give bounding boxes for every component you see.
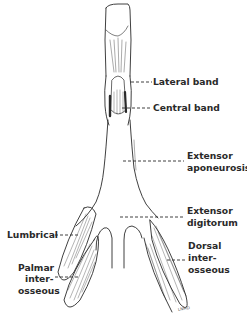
label-extensor-aponeurosis-line1: Extensor	[187, 150, 233, 161]
label-dorsal-interosseous-line3: osseous	[188, 264, 230, 275]
aponeurosis-right-edge	[130, 120, 158, 218]
label-palmar-interosseous-line3: osseous	[18, 285, 60, 296]
dorsal-interosseous-muscle	[150, 220, 187, 308]
aponeurosis-left-edge	[76, 120, 108, 226]
anatomy-diagram: Lateral band Central band Extensor apone…	[0, 0, 247, 329]
lateral-band-right	[128, 76, 131, 125]
label-dorsal-interosseous-line1: Dorsal	[188, 240, 221, 251]
lumbrical-muscle	[58, 207, 96, 280]
label-palmar-interosseous-line1: Palmar	[18, 262, 54, 273]
label-extensor-digitorum-line2: digitorum	[187, 217, 238, 228]
label-palmar-interosseous-line2: inter-	[25, 273, 54, 284]
label-dorsal-interosseous-line2: inter-	[188, 252, 217, 263]
label-central-band: Central band	[153, 102, 220, 113]
label-extensor-digitorum-line1: Extensor	[187, 205, 233, 216]
metacarpal-gap-right	[124, 226, 142, 268]
label-lumbrical: Lumbrical	[7, 229, 58, 240]
lateral-band-left	[105, 76, 109, 125]
label-lateral-band: Lateral band	[153, 76, 219, 87]
label-extensor-aponeurosis-line2: aponeurosis	[187, 162, 247, 173]
